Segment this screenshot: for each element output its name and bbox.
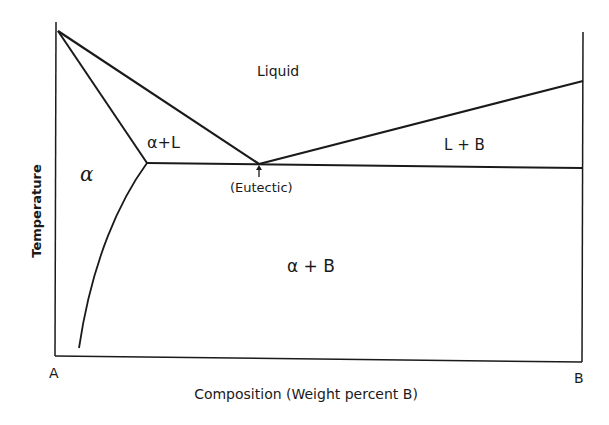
liquidus-b-line (259, 81, 583, 164)
eutectic-arrow-icon (256, 165, 262, 170)
component-a-label: A (49, 365, 59, 381)
region-liquid-label: Liquid (257, 63, 299, 79)
region-alpha-b-label: α + B (287, 256, 335, 276)
region-liquid-b-label: L + B (444, 136, 485, 154)
solvus-curve (79, 163, 147, 348)
y-axis-label: Temperature (29, 164, 44, 258)
eutectic-label: (Eutectic) (230, 180, 293, 195)
x-axis (55, 356, 582, 362)
region-alpha-liquid-label: α+L (147, 133, 180, 152)
phase-diagram: Liquid α α+L L + B α + B (Eutectic) Temp… (0, 0, 609, 425)
region-alpha-label: α (80, 162, 94, 186)
x-axis-label: Composition (Weight percent B) (194, 386, 418, 402)
y-axis-left (55, 22, 56, 356)
component-b-label: B (574, 370, 584, 386)
eutectic-line (147, 163, 582, 168)
solidus-line (58, 31, 147, 163)
